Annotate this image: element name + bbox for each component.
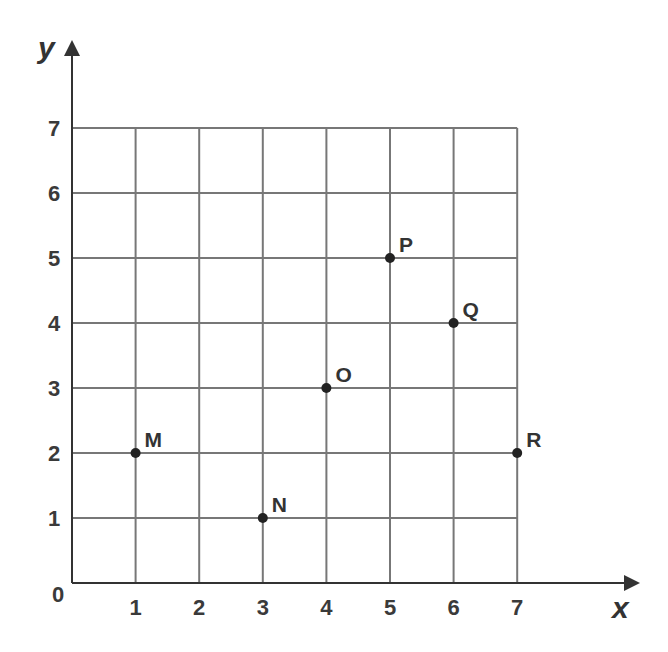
- x-tick-label: 1: [129, 595, 141, 620]
- y-axis-label: y: [36, 31, 56, 64]
- y-tick-labels: 1234567: [48, 116, 61, 531]
- y-tick-label: 6: [48, 181, 60, 206]
- point-marker: [258, 513, 268, 523]
- x-tick-label: 3: [257, 595, 269, 620]
- y-axis-arrow-icon: [64, 40, 80, 56]
- y-tick-label: 7: [48, 116, 60, 141]
- x-tick-label: 5: [384, 595, 396, 620]
- y-tick-label: 4: [48, 311, 61, 336]
- y-tick-label: 3: [48, 376, 60, 401]
- point-marker: [512, 448, 522, 458]
- x-axis-label: x: [610, 591, 630, 624]
- x-tick-label: 4: [320, 595, 333, 620]
- x-tick-labels: 1234567: [129, 595, 523, 620]
- point-label: M: [145, 428, 163, 451]
- point-marker: [385, 253, 395, 263]
- y-tick-label: 5: [48, 246, 60, 271]
- point-marker: [449, 318, 459, 328]
- point-label: R: [526, 428, 541, 451]
- point-marker: [131, 448, 141, 458]
- y-tick-label: 1: [48, 506, 60, 531]
- origin-label: 0: [52, 582, 64, 607]
- axes: x y 0: [36, 31, 640, 624]
- point-label: P: [399, 233, 413, 256]
- data-points: MNOPQR: [131, 233, 542, 523]
- grid: [72, 128, 517, 583]
- coordinate-plane: x y 0 1234567 1234567 MNOPQR: [0, 0, 668, 652]
- point-label: O: [335, 363, 351, 386]
- x-tick-label: 7: [511, 595, 523, 620]
- x-tick-label: 6: [447, 595, 459, 620]
- point-label: Q: [463, 298, 479, 321]
- point-marker: [321, 383, 331, 393]
- point-label: N: [272, 493, 287, 516]
- y-tick-label: 2: [48, 441, 60, 466]
- x-tick-label: 2: [193, 595, 205, 620]
- x-axis-arrow-icon: [624, 575, 640, 591]
